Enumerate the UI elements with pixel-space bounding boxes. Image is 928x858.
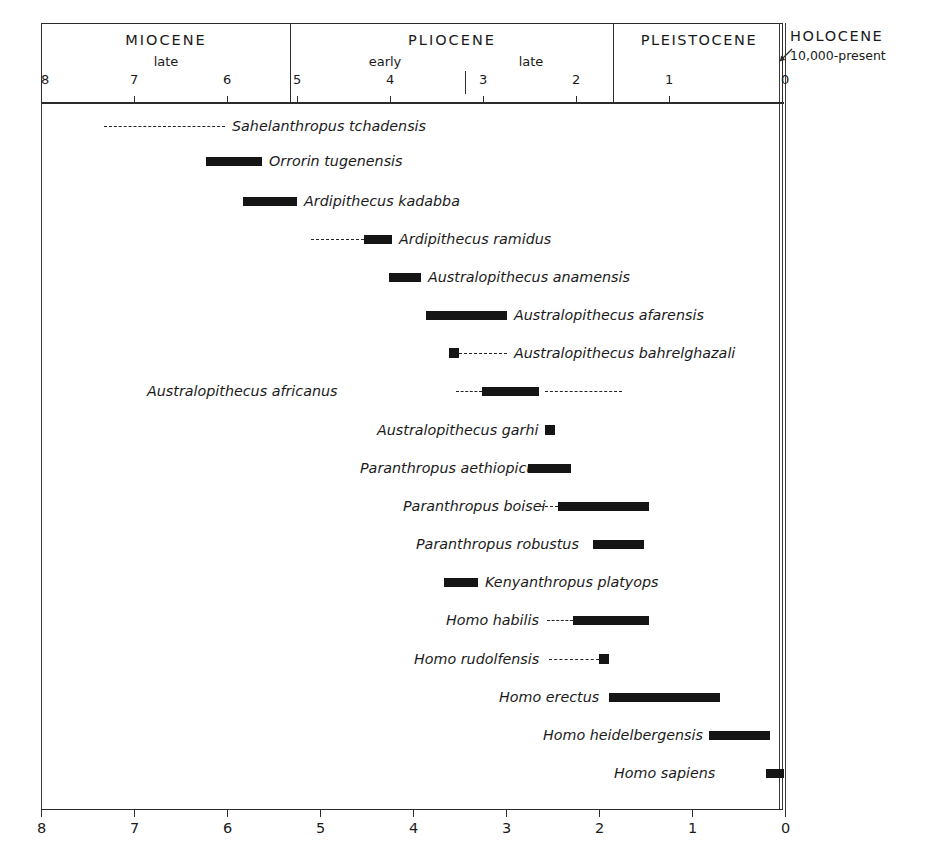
range-dash-inferred (104, 126, 225, 127)
taxon-label: Australopithecus africanus (147, 381, 338, 401)
top-tick-label-6: 6 (223, 72, 231, 87)
range-dash-inferred (547, 620, 573, 621)
plot-area: Sahelanthropus tchadensis Orrorin tugene… (41, 103, 783, 810)
point-marker (449, 348, 459, 358)
range-bar (364, 235, 392, 244)
top-tick-label-1: 1 (665, 72, 673, 87)
table-row: Kenyanthropus platyops (42, 572, 784, 592)
bottom-tick-label-5: 5 (316, 820, 325, 836)
taxon-label: Homo erectus (499, 687, 599, 707)
table-row: Paranthropus robustus (42, 534, 784, 554)
epoch-name-holocene: HOLOCENE (790, 28, 925, 44)
top-tick-label-5: 5 (293, 72, 301, 87)
bottom-tick-label-3: 3 (502, 820, 511, 836)
top-tick-label-0: 0 (781, 72, 789, 87)
range-dash-inferred (540, 506, 558, 507)
table-row: Ardipithecus kadabba (42, 191, 784, 211)
holocene-range-label: 10,000-present (790, 48, 925, 63)
subepoch-miocene-late: late (42, 54, 290, 69)
bottom-tick-label-4: 4 (409, 820, 418, 836)
point-marker (599, 654, 609, 664)
top-tick-label-2: 2 (572, 72, 580, 87)
bottom-tick-mark-5 (320, 810, 321, 817)
taxon-label: Homo rudolfensis (414, 649, 539, 669)
bottom-tick-label-0: 0 (781, 820, 790, 836)
epoch-name-miocene: MIOCENE (42, 32, 290, 48)
range-bar (709, 731, 770, 740)
table-row: Australopithecus garhi (42, 420, 784, 440)
range-dash-inferred-tail (545, 391, 622, 392)
taxon-label: Sahelanthropus tchadensis (232, 116, 426, 136)
range-bar (528, 464, 571, 473)
taxon-label: Paranthropus boisei (403, 496, 546, 516)
range-bar (558, 502, 649, 511)
range-bar (444, 578, 478, 587)
top-axis: 8 7 6 5 4 3 2 1 0 (41, 72, 786, 103)
range-bar (609, 693, 720, 702)
holocene-edge-right (785, 23, 786, 810)
range-bar (593, 540, 644, 549)
hominin-timeline-figure: MIOCENE late PLIOCENE early late PLEISTO… (0, 0, 928, 858)
range-bar (426, 311, 507, 320)
taxon-label: Australopithecus afarensis (514, 305, 704, 325)
range-dash-inferred (459, 353, 507, 354)
taxon-label: Orrorin tugenensis (269, 151, 403, 171)
subepoch-pliocene-early: early (325, 54, 445, 69)
subepoch-pliocene-late: late (476, 54, 586, 69)
range-bar (766, 769, 784, 778)
table-row: Homo sapiens (42, 763, 784, 783)
taxon-label: Australopithecus garhi (377, 420, 538, 440)
range-bar (482, 387, 539, 396)
bottom-tick-mark-7 (134, 810, 135, 817)
taxon-label: Paranthropus robustus (416, 534, 579, 554)
table-row: Australopithecus bahrelghazali (42, 343, 784, 363)
range-bar (206, 157, 262, 166)
taxon-label: Homo sapiens (614, 763, 715, 783)
range-dash-inferred (456, 391, 482, 392)
taxon-label: Homo habilis (446, 610, 539, 630)
range-dash-inferred (311, 239, 364, 240)
taxon-label: Homo heidelbergensis (543, 725, 703, 745)
taxon-label: Australopithecus anamensis (428, 267, 630, 287)
point-marker (545, 425, 555, 435)
table-row: Orrorin tugenensis (42, 151, 784, 171)
table-row: Homo habilis (42, 610, 784, 630)
bottom-tick-mark-8 (41, 810, 42, 817)
holocene-annotation: HOLOCENE 10,000-present (790, 28, 925, 63)
top-tick-label-7: 7 (130, 72, 138, 87)
bottom-axis: 8 7 6 5 4 3 2 1 0 (41, 810, 786, 850)
range-dash-inferred (549, 659, 599, 660)
bottom-tick-label-1: 1 (688, 820, 697, 836)
taxon-label: Ardipithecus ramidus (399, 229, 551, 249)
bottom-tick-label-2: 2 (595, 820, 604, 836)
table-row: Australopithecus anamensis (42, 267, 784, 287)
bottom-tick-mark-1 (692, 810, 693, 817)
table-row: Homo erectus (42, 687, 784, 707)
table-row: Homo rudolfensis (42, 649, 784, 669)
bottom-tick-label-8: 8 (37, 820, 46, 836)
table-row: Australopithecus afarensis (42, 305, 784, 325)
table-row: Ardipithecus ramidus (42, 229, 784, 249)
bottom-tick-mark-2 (599, 810, 600, 817)
bottom-tick-label-7: 7 (130, 820, 139, 836)
bottom-tick-label-6: 6 (223, 820, 232, 836)
table-row: Homo heidelbergensis (42, 725, 784, 745)
table-row: Paranthropus boisei (42, 496, 784, 516)
table-row: Australopithecus africanus (42, 381, 784, 401)
taxon-label: Paranthropus aethiopicus (360, 458, 543, 478)
top-tick-label-4: 4 (386, 72, 394, 87)
range-bar (243, 197, 297, 206)
bottom-tick-mark-0 (785, 810, 786, 817)
taxon-label: Australopithecus bahrelghazali (514, 343, 735, 363)
epoch-name-pleistocene: PLEISTOCENE (614, 32, 784, 48)
range-bar (573, 616, 649, 625)
range-bar (389, 273, 421, 282)
taxon-label: Ardipithecus kadabba (304, 191, 460, 211)
epoch-name-pliocene: PLIOCENE (291, 32, 613, 48)
table-row: Sahelanthropus tchadensis (42, 116, 784, 136)
top-tick-label-8: 8 (41, 72, 49, 87)
bottom-tick-mark-6 (227, 810, 228, 817)
top-tick-label-3: 3 (479, 72, 487, 87)
bottom-tick-mark-4 (413, 810, 414, 817)
bottom-tick-mark-3 (506, 810, 507, 817)
